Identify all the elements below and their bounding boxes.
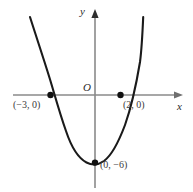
parabola-graph-figure: (−3, 0) (2, 0) (0, −6) O x y xyxy=(0,0,193,192)
graph-canvas xyxy=(0,0,193,192)
label-root-right: (2, 0) xyxy=(123,100,145,110)
label-x-axis: x xyxy=(177,101,182,112)
point-root-left xyxy=(47,92,53,98)
label-origin: O xyxy=(83,82,91,93)
point-root-right xyxy=(117,92,123,98)
label-y-intercept: (0, −6) xyxy=(100,160,127,170)
x-axis-arrowhead xyxy=(174,91,183,98)
label-y-axis: y xyxy=(80,6,85,17)
label-root-left: (−3, 0) xyxy=(13,100,40,110)
y-axis-arrowhead xyxy=(91,9,98,18)
point-y-intercept xyxy=(92,159,98,165)
